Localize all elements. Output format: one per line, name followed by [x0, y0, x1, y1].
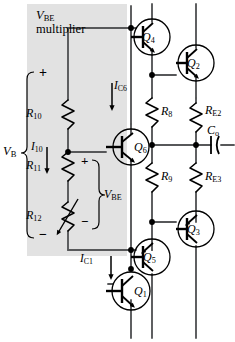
label-R10: R10 [26, 107, 42, 121]
polarity-plus-vbe: + [81, 154, 88, 168]
circuit-schematic-figure: VBE multiplier + − VB R10 R11 R12 I10 IC… [0, 0, 235, 342]
label-Co: Co [207, 124, 219, 138]
label-Q1: Q1 [134, 285, 147, 299]
polarity-minus-bottom: − [39, 228, 47, 243]
vbe-multiplier-label: VBE multiplier [36, 9, 85, 36]
resistor-R9-symbol [146, 163, 158, 192]
label-Q6: Q6 [134, 141, 147, 155]
label-RE2: RE2 [205, 104, 221, 118]
label-Q2: Q2 [187, 57, 200, 71]
polarity-minus-vbe: − [81, 215, 88, 229]
vbe-multiplier-shaded-region [27, 4, 127, 256]
label-R11: R11 [26, 159, 41, 173]
label-Q3: Q3 [187, 223, 200, 237]
label-RE3: RE3 [205, 170, 221, 184]
label-Q4: Q4 [142, 31, 155, 45]
label-R8: R8 [161, 105, 172, 119]
label-R9: R9 [161, 170, 172, 184]
polarity-plus-top: + [39, 66, 47, 81]
label-IC1: IC1 [80, 252, 93, 266]
label-Q5: Q5 [143, 251, 156, 265]
label-IC6: IC6 [114, 79, 127, 93]
resistor-R8-symbol [146, 98, 158, 127]
label-R12: R12 [26, 209, 42, 223]
resistor-RE3-symbol [190, 163, 202, 192]
label-I10: I10 [31, 140, 43, 154]
label-VB: VB [3, 145, 16, 159]
capacitor-Co-symbol [211, 136, 219, 154]
resistor-RE2-symbol [190, 103, 202, 132]
label-VBE: VBE [104, 188, 122, 202]
